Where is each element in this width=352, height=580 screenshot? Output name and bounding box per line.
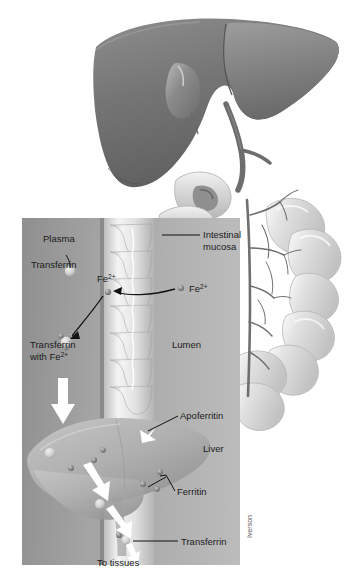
label-lumen: Lumen	[172, 339, 201, 350]
iron-ion-lumen	[178, 285, 184, 291]
iron-ion-mucosa	[105, 289, 111, 295]
label-transferrin: Transferrin	[31, 259, 77, 270]
label-transferrin-liver: Transferrin	[181, 536, 227, 547]
label-transferrin-with-fe-line1: Transferrin	[30, 339, 76, 350]
lumen-region	[152, 218, 240, 565]
label-plasma: Plasma	[43, 233, 75, 244]
label-ferritin: Ferritin	[177, 486, 207, 497]
label-to-tissues: To tissues	[97, 557, 139, 568]
label-liver: Liver	[203, 443, 224, 454]
inset-panel	[22, 218, 240, 565]
label-intestinal-mucosa-line1: Intestinal	[203, 229, 241, 240]
artist-signature: Iverson	[246, 515, 253, 538]
iron-absorption-figure: Plasma Transferrin Transferrin with Fe2+…	[0, 0, 352, 580]
label-apoferritin: Apoferritin	[180, 410, 223, 421]
bound-iron-1	[58, 333, 63, 338]
label-intestinal-mucosa-line2: mucosa	[203, 241, 237, 252]
